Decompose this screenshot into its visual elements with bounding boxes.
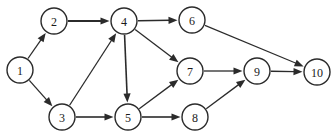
arrowhead-icon <box>234 67 243 74</box>
arrowhead-icon <box>169 54 178 62</box>
arrowhead-icon <box>101 17 110 24</box>
node-label: 10 <box>311 66 323 80</box>
edge-4-to-7 <box>135 29 178 62</box>
edge-line <box>206 84 239 109</box>
node-label: 9 <box>254 65 260 79</box>
node-label: 1 <box>17 64 23 78</box>
node-label: 3 <box>59 111 65 125</box>
edge-3-to-4 <box>70 33 117 105</box>
node-label: 6 <box>189 14 195 28</box>
arrowhead-icon <box>123 93 130 102</box>
arrowhead-icon <box>105 113 114 120</box>
edge-7-to-9 <box>204 67 243 74</box>
arrowhead-icon <box>172 113 181 120</box>
nodes-layer: 12345678910 <box>7 7 330 130</box>
edge-line <box>28 39 41 58</box>
edge-9-to-10 <box>271 68 303 75</box>
node-label: 8 <box>192 111 198 125</box>
edge-line <box>135 29 172 57</box>
directed-graph-diagram: 12345678910 <box>0 0 336 136</box>
node-label: 4 <box>121 15 127 29</box>
arrowhead-icon <box>293 68 302 75</box>
graph-node-4[interactable]: 4 <box>111 8 137 34</box>
graph-node-7[interactable]: 7 <box>177 58 203 84</box>
edge-1-to-2 <box>28 33 46 59</box>
edge-5-to-7 <box>139 80 178 109</box>
edge-1-to-3 <box>29 80 52 106</box>
arrowhead-icon <box>168 17 177 24</box>
graph-node-3[interactable]: 3 <box>49 104 75 130</box>
edge-2-to-4 <box>68 17 110 24</box>
node-label: 2 <box>51 15 57 29</box>
edge-4-to-6 <box>138 17 178 24</box>
edge-line <box>205 25 297 63</box>
edge-4-to-5 <box>123 35 130 103</box>
graph-node-1[interactable]: 1 <box>7 57 33 83</box>
edge-line <box>29 80 47 100</box>
arrowhead-icon <box>169 80 178 88</box>
graph-node-6[interactable]: 6 <box>179 7 205 33</box>
edge-line <box>139 84 172 109</box>
edge-line <box>70 39 112 105</box>
arrowhead-icon <box>236 80 245 88</box>
node-label: 5 <box>125 111 131 125</box>
graph-node-8[interactable]: 8 <box>182 104 208 130</box>
node-label: 7 <box>187 65 193 79</box>
graph-node-2[interactable]: 2 <box>41 8 67 34</box>
arrowhead-icon <box>38 33 46 42</box>
graph-node-10[interactable]: 10 <box>304 59 330 85</box>
arrowhead-icon <box>108 33 116 43</box>
arrowhead-icon <box>294 60 304 67</box>
edge-line <box>125 35 128 95</box>
edge-8-to-9 <box>206 80 245 109</box>
edge-3-to-5 <box>76 113 114 120</box>
graph-node-9[interactable]: 9 <box>244 58 270 84</box>
edge-5-to-8 <box>142 113 181 120</box>
graph-node-5[interactable]: 5 <box>115 104 141 130</box>
